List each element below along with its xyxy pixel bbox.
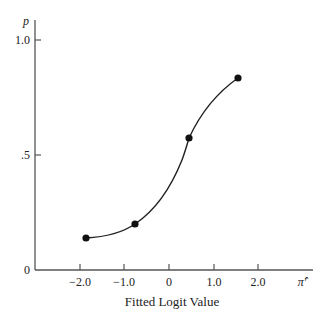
x-tick-label--1: −1.0 xyxy=(113,275,135,289)
x-tick-label-2: 2.0 xyxy=(251,275,266,289)
x-tick-label--2: −2.0 xyxy=(69,275,91,289)
x-tick-label-1: 1.0 xyxy=(207,275,222,289)
x-axis-end-label: π̂′ xyxy=(298,275,309,289)
x-ticks xyxy=(80,264,258,270)
y-axis-title: p xyxy=(22,14,29,28)
data-points xyxy=(82,74,241,241)
data-point xyxy=(131,220,138,227)
data-point xyxy=(234,74,241,81)
x-axis-title: Fitted Logit Value xyxy=(125,294,220,309)
y-tick-label-1: 1.0 xyxy=(15,33,30,47)
x-tick-label-0: 0 xyxy=(166,275,172,289)
fitted-curve xyxy=(86,78,238,238)
data-point xyxy=(82,234,89,241)
data-point xyxy=(185,134,192,141)
y-tick-label-0.5: .5 xyxy=(21,148,30,162)
y-tick-label-0: 0 xyxy=(24,263,30,277)
chart: p 1.0 .5 0 −2.0 −1.0 0 1.0 2.0 π̂′ Fitte… xyxy=(0,0,329,321)
